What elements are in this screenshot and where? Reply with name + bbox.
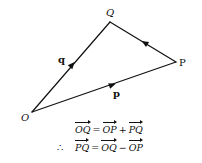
vector-op-term: OP <box>103 122 117 135</box>
plus-sign: + <box>117 124 129 135</box>
equals-sign: = <box>91 124 103 135</box>
vector-oq-term: OQ <box>101 140 117 153</box>
equation-line-2: ∴PQ=OQ−OP <box>75 140 143 153</box>
vector-op-term: OP <box>129 140 143 153</box>
point-label-o: O <box>21 113 29 123</box>
therefore-symbol: ∴ <box>57 143 63 153</box>
point-label-p: P <box>179 58 186 68</box>
equals-sign: = <box>89 142 101 153</box>
vector-label-q: q <box>58 55 65 65</box>
vector-pq-term: PQ <box>129 122 143 135</box>
point-label-q: Q <box>106 8 114 18</box>
vector-oq-term: OQ <box>75 122 91 135</box>
minus-sign: − <box>117 142 129 153</box>
arrowhead-pq-icon <box>140 38 149 47</box>
vector-pq-term: PQ <box>75 140 89 153</box>
vector-label-p: p <box>113 89 120 99</box>
equation-line-1: OQ=OP+PQ <box>75 122 143 135</box>
vector-triangle-diagram <box>0 0 202 163</box>
